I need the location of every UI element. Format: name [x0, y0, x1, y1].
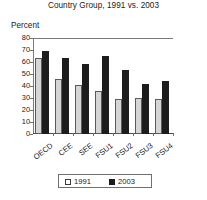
bar-see-1991	[75, 85, 82, 134]
bar-cee-2003	[62, 58, 69, 134]
y-axis-tick-labels: 01020304050607080	[12, 0, 30, 200]
light-square-swatch-icon	[65, 179, 71, 185]
y-axis-tick-label: 50	[22, 70, 30, 77]
y-axis-tick-label: 40	[22, 82, 30, 89]
x-axis-tick-mark	[173, 133, 174, 136]
x-axis-tick-mark	[153, 133, 154, 136]
bar-oecd-2003	[42, 51, 49, 134]
bar-fsu4-1991	[155, 99, 162, 134]
bar-fsu1-2003	[102, 56, 109, 134]
legend-entry-2003[interactable]: 2003	[109, 177, 135, 187]
bar-fsu2-1991	[115, 99, 122, 134]
bar-fsu4-2003	[162, 81, 169, 134]
bars-layer	[33, 38, 173, 134]
legend-label: 1991	[74, 178, 91, 186]
y-axis-tick-label: 20	[22, 106, 30, 113]
x-axis-tick-mark	[73, 133, 74, 136]
y-axis-tick-mark	[30, 134, 33, 135]
chart-legend: 19912003	[58, 174, 152, 188]
bar-oecd-1991	[35, 58, 42, 134]
y-axis-tick-label: 80	[22, 34, 30, 41]
legend-entry-1991[interactable]: 1991	[65, 177, 91, 187]
bar-fsu1-1991	[95, 91, 102, 134]
legend-label: 2003	[118, 178, 135, 186]
chart-title: Country Group, 1991 vs. 2003	[0, 1, 207, 10]
bar-fsu3-2003	[142, 84, 149, 134]
bar-group	[53, 38, 73, 134]
bar-see-2003	[82, 64, 89, 134]
x-axis-tick-mark	[53, 133, 54, 136]
bar-group	[133, 38, 153, 134]
bar-group	[93, 38, 113, 134]
bar-chart: Country Group, 1991 vs. 2003 Percent 010…	[0, 0, 207, 200]
bar-fsu2-2003	[122, 70, 129, 134]
y-axis-tick-label: 60	[22, 58, 30, 65]
bar-group	[73, 38, 93, 134]
bar-cee-1991	[55, 79, 62, 134]
bar-group	[113, 38, 133, 134]
x-axis-tick-mark	[133, 133, 134, 136]
bar-group	[153, 38, 173, 134]
bar-group	[33, 38, 53, 134]
y-axis-tick-label: 70	[22, 46, 30, 53]
y-axis-tick-label: 30	[22, 94, 30, 101]
x-axis-tick-mark	[93, 133, 94, 136]
bar-fsu3-1991	[135, 98, 142, 134]
dark-square-swatch-icon	[109, 179, 115, 185]
y-axis-tick-label: 10	[22, 118, 30, 125]
x-axis-tick-mark	[113, 133, 114, 136]
